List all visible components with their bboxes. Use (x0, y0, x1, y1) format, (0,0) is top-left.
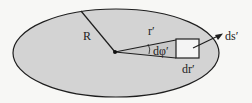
center-dot (113, 50, 117, 54)
disk-diagram: R r′ dφ′ dr′ ds′ (0, 0, 252, 103)
area-element-rect (176, 39, 199, 58)
label-ds-prime: ds′ (225, 29, 239, 43)
label-dr-prime: dr′ (182, 62, 195, 76)
label-radius: R (83, 29, 91, 43)
label-r-prime: r′ (148, 24, 155, 38)
label-dphi-prime: dφ′ (153, 44, 169, 58)
